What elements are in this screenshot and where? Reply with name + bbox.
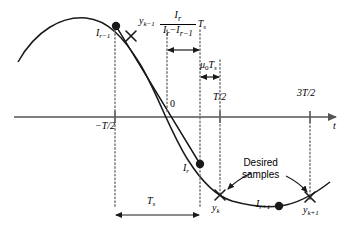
label-mu0-Ts: μ0Ts — [200, 60, 217, 72]
signal-curve — [18, 18, 330, 207]
label-origin: 0 — [170, 99, 175, 109]
label-half-T: T/2 — [213, 92, 226, 102]
label-I-r-plus-1: Ir+1 — [256, 199, 270, 211]
fraction-multiplier: Ts — [196, 18, 206, 31]
label-desired-samples: Desired samples — [242, 157, 279, 180]
guide-lines — [115, 30, 310, 208]
label-I-r: Ir — [183, 163, 189, 175]
label-y-k-minus-1: yk−1 — [139, 16, 155, 28]
label-y-k: yk — [212, 203, 220, 215]
cross-y-k — [215, 190, 225, 200]
interpolation-fraction-expression: Ir Ir−Ir−1 Ts — [160, 10, 206, 38]
dot-I-r — [196, 160, 204, 168]
fraction-numerator: Ir — [160, 10, 196, 25]
label-Ts-span: Ts — [147, 196, 155, 208]
time-axis — [14, 111, 336, 123]
label-y-k-plus-1: yk+1 — [303, 205, 319, 217]
interpolation-chord — [116, 26, 201, 166]
label-axis-t: t — [333, 121, 336, 131]
label-minus-half-T: −T/2 — [95, 121, 115, 131]
timing-recovery-figure: Ir−1 yk−1 Ir Ir−Ir−1 Ts μ0Ts 0 −T/2 T/2 … — [0, 0, 351, 234]
label-three-half-T: 3T/2 — [297, 88, 315, 98]
label-I-r-minus-1: Ir−1 — [96, 28, 110, 40]
dot-I-r-plus-1 — [275, 202, 283, 210]
cross-y-k-minus-1 — [126, 31, 136, 41]
dot-I-r-minus-1 — [112, 22, 120, 30]
fraction-denominator: Ir−Ir−1 — [160, 25, 196, 39]
